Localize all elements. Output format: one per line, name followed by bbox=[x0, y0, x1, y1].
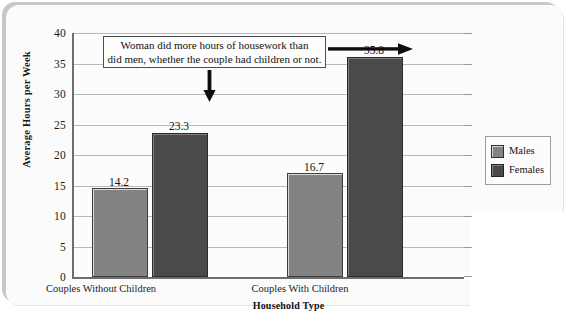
legend-label-males: Males bbox=[509, 146, 535, 157]
bar-chart: 40 35 30 25 20 15 10 5 0 Average Hours p… bbox=[0, 0, 577, 317]
legend-swatch-males-icon bbox=[491, 145, 504, 158]
gridline-30 bbox=[74, 94, 464, 95]
y-tick-15: 15 bbox=[32, 181, 66, 193]
y-tick-5: 5 bbox=[32, 242, 66, 254]
right-tick-25 bbox=[464, 125, 472, 126]
arrow-down-icon bbox=[203, 70, 216, 102]
x-tick-couples-with-children: Couples With Children bbox=[205, 284, 395, 295]
annotation-callout: Woman did more hours of housework than d… bbox=[103, 36, 326, 68]
gridline-20 bbox=[74, 155, 464, 156]
y-axis-title: Average Hours per Week bbox=[21, 35, 32, 185]
y-tick-10: 10 bbox=[32, 211, 66, 223]
y-tick-40: 40 bbox=[32, 28, 66, 40]
data-label-16-7: 16.7 bbox=[290, 162, 338, 174]
bar-females-with-children[interactable] bbox=[347, 57, 403, 277]
right-tick-15 bbox=[464, 186, 472, 187]
callout-line-2: did men, whether the couple had children… bbox=[108, 53, 322, 66]
data-label-23-3: 23.3 bbox=[155, 121, 203, 133]
chart-legend: Males Females bbox=[485, 136, 551, 185]
legend-item-males[interactable]: Males bbox=[491, 142, 550, 161]
right-tick-35 bbox=[464, 64, 472, 65]
right-tick-20 bbox=[464, 155, 472, 156]
y-axis-tick-labels: 40 35 30 25 20 15 10 5 0 bbox=[30, 33, 66, 277]
gridline-25 bbox=[74, 125, 464, 126]
right-tick-40 bbox=[464, 33, 472, 34]
bar-males-without-children[interactable] bbox=[92, 188, 148, 277]
y-tick-30: 30 bbox=[32, 89, 66, 101]
x-tick-couples-without-children: Couples Without Children bbox=[6, 284, 196, 295]
x-axis-title: Household Type bbox=[0, 300, 577, 311]
y-tick-0: 0 bbox=[32, 272, 66, 284]
bar-males-with-children[interactable] bbox=[287, 173, 343, 277]
right-tick-10 bbox=[464, 216, 472, 217]
right-tick-30 bbox=[464, 94, 472, 95]
legend-label-females: Females bbox=[509, 165, 544, 176]
plot-area: 14.2 23.3 16.7 35.8 bbox=[72, 33, 464, 279]
callout-line-1: Woman did more hours of housework than bbox=[121, 39, 309, 52]
data-label-14-2: 14.2 bbox=[95, 177, 143, 189]
bar-females-without-children[interactable] bbox=[152, 133, 208, 277]
y-tick-25: 25 bbox=[32, 120, 66, 132]
legend-swatch-females-icon bbox=[491, 164, 504, 177]
right-tick-5 bbox=[464, 247, 472, 248]
y-tick-20: 20 bbox=[32, 150, 66, 162]
right-tick-0 bbox=[464, 276, 472, 277]
arrow-right-icon bbox=[328, 42, 413, 56]
legend-item-females[interactable]: Females bbox=[491, 161, 550, 180]
y-tick-35: 35 bbox=[32, 59, 66, 71]
gridline-40 bbox=[74, 33, 464, 34]
